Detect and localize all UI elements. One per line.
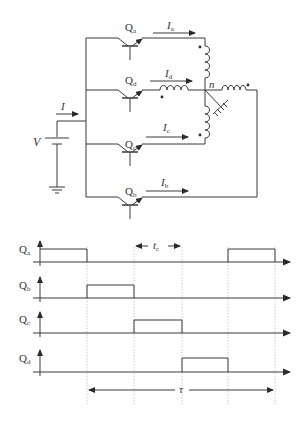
timing-row-qb (33, 277, 290, 302)
label-ia: Ia (166, 19, 175, 33)
ground-icon (49, 187, 65, 193)
label-qc: Qc (125, 138, 136, 152)
transistor-qa-icon (118, 38, 142, 60)
coil-d-icon (160, 86, 188, 91)
label-tc: tc (153, 239, 159, 253)
label-tau: τ (179, 383, 184, 395)
timing-label-qa: Qa (19, 243, 31, 257)
chassis-ground-icon (205, 90, 228, 116)
label-voltage: V (33, 135, 42, 149)
stepper-drive-diagram: Qa Qd Qc Qb Ia Id Ic Ib I V n (0, 0, 307, 421)
label-ib: Ib (160, 176, 169, 190)
timing-gridlines (87, 247, 275, 404)
label-ic: Ic (162, 121, 170, 135)
coil-c-icon (205, 106, 210, 138)
transistor-qb-icon (118, 197, 142, 219)
label-source-current: I (60, 100, 66, 112)
timing-label-qd: Qd (19, 352, 31, 366)
label-qb: Qb (125, 185, 137, 199)
coil-b-icon (222, 86, 246, 91)
timing-row-qa (33, 241, 290, 266)
label-node-n: n (209, 78, 215, 90)
timing-label-qb: Qb (19, 279, 31, 293)
timing-row-qc (33, 312, 290, 337)
label-qd: Qd (125, 74, 137, 88)
transistor-qd-icon (118, 90, 142, 112)
label-id: Id (164, 67, 173, 81)
coil-a-icon (205, 46, 210, 78)
label-qa: Qa (125, 21, 137, 35)
timing-label-qc: Qc (19, 313, 30, 327)
timing-row-qd (33, 350, 290, 376)
